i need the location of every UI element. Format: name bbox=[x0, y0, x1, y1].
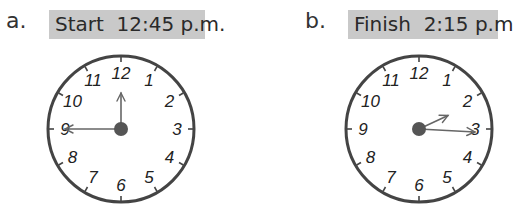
svg-text:5: 5 bbox=[144, 168, 154, 187]
svg-text:7: 7 bbox=[386, 168, 396, 187]
clock-face-finish: 121234567891011 bbox=[339, 49, 499, 209]
svg-text:12: 12 bbox=[112, 64, 131, 83]
svg-text:10: 10 bbox=[63, 92, 82, 111]
svg-text:6: 6 bbox=[116, 176, 126, 195]
svg-text:9: 9 bbox=[358, 120, 368, 139]
svg-text:8: 8 bbox=[366, 148, 376, 167]
svg-text:2: 2 bbox=[164, 92, 175, 111]
svg-text:11: 11 bbox=[382, 71, 400, 90]
svg-text:4: 4 bbox=[165, 148, 174, 167]
svg-text:10: 10 bbox=[361, 92, 380, 111]
svg-text:4: 4 bbox=[463, 148, 472, 167]
center-dot bbox=[114, 122, 128, 136]
svg-text:7: 7 bbox=[88, 168, 98, 187]
svg-text:12: 12 bbox=[410, 64, 429, 83]
svg-text:1: 1 bbox=[442, 71, 451, 90]
center-dot bbox=[412, 122, 426, 136]
svg-text:5: 5 bbox=[442, 168, 452, 187]
svg-text:1: 1 bbox=[144, 71, 153, 90]
problem-b-letter: b. bbox=[305, 8, 326, 33]
svg-text:3: 3 bbox=[470, 120, 480, 139]
svg-text:8: 8 bbox=[68, 148, 78, 167]
clock-face-start: 121234567891011 bbox=[41, 49, 201, 209]
start-time-label: Start 12:45 p.m. bbox=[49, 10, 205, 39]
problem-a-letter: a. bbox=[6, 8, 26, 33]
finish-time-label: Finish 2:15 p.m. bbox=[348, 10, 498, 39]
svg-text:2: 2 bbox=[462, 92, 473, 111]
svg-text:6: 6 bbox=[414, 176, 424, 195]
svg-text:11: 11 bbox=[84, 71, 102, 90]
svg-text:3: 3 bbox=[172, 120, 182, 139]
